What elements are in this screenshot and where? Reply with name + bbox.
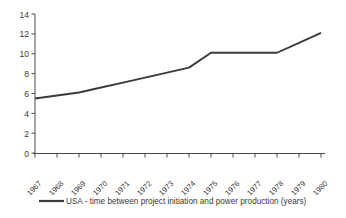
y-axis-tick-labels: 14 12 10 8 6 4 2 0 [20,10,30,159]
y-tick-label: 4 [24,109,29,119]
x-axis-ticks [35,154,321,158]
x-tick-label: 1973 [157,179,175,197]
y-tick-label: 6 [24,89,29,99]
x-tick-label: 1978 [267,179,285,197]
x-tick-label: 1977 [245,179,263,197]
x-tick-label: 1980 [311,179,329,197]
chart-legend: USA - time between project initiation an… [39,197,307,206]
y-tick-label: 10 [20,49,30,59]
legend-label-usa: USA - time between project initiation an… [66,197,307,206]
x-tick-label: 1970 [91,179,109,197]
y-tick-label: 8 [24,69,29,79]
x-tick-label: 1971 [113,179,131,197]
x-tick-label: 1975 [201,179,219,197]
x-tick-label: 1967 [25,179,43,197]
x-tick-label: 1974 [179,179,197,197]
x-tick-label: 1979 [289,179,307,197]
y-tick-label: 12 [20,29,30,39]
x-axis-tick-labels: 1967 1968 1969 1970 1971 1972 1973 1974 … [25,179,329,197]
y-tick-label: 0 [24,149,29,159]
chart-canvas: 14 12 10 8 6 4 2 0 [0,0,346,218]
x-tick-label: 1968 [47,179,65,197]
y-axis-ticks [32,14,36,153]
y-tick-label: 14 [20,10,30,20]
y-tick-label: 2 [24,129,29,139]
x-tick-label: 1969 [69,179,87,197]
series-line-usa [35,33,321,99]
x-tick-label: 1976 [223,179,241,197]
line-chart: 14 12 10 8 6 4 2 0 [0,0,346,218]
x-tick-label: 1972 [135,179,153,197]
